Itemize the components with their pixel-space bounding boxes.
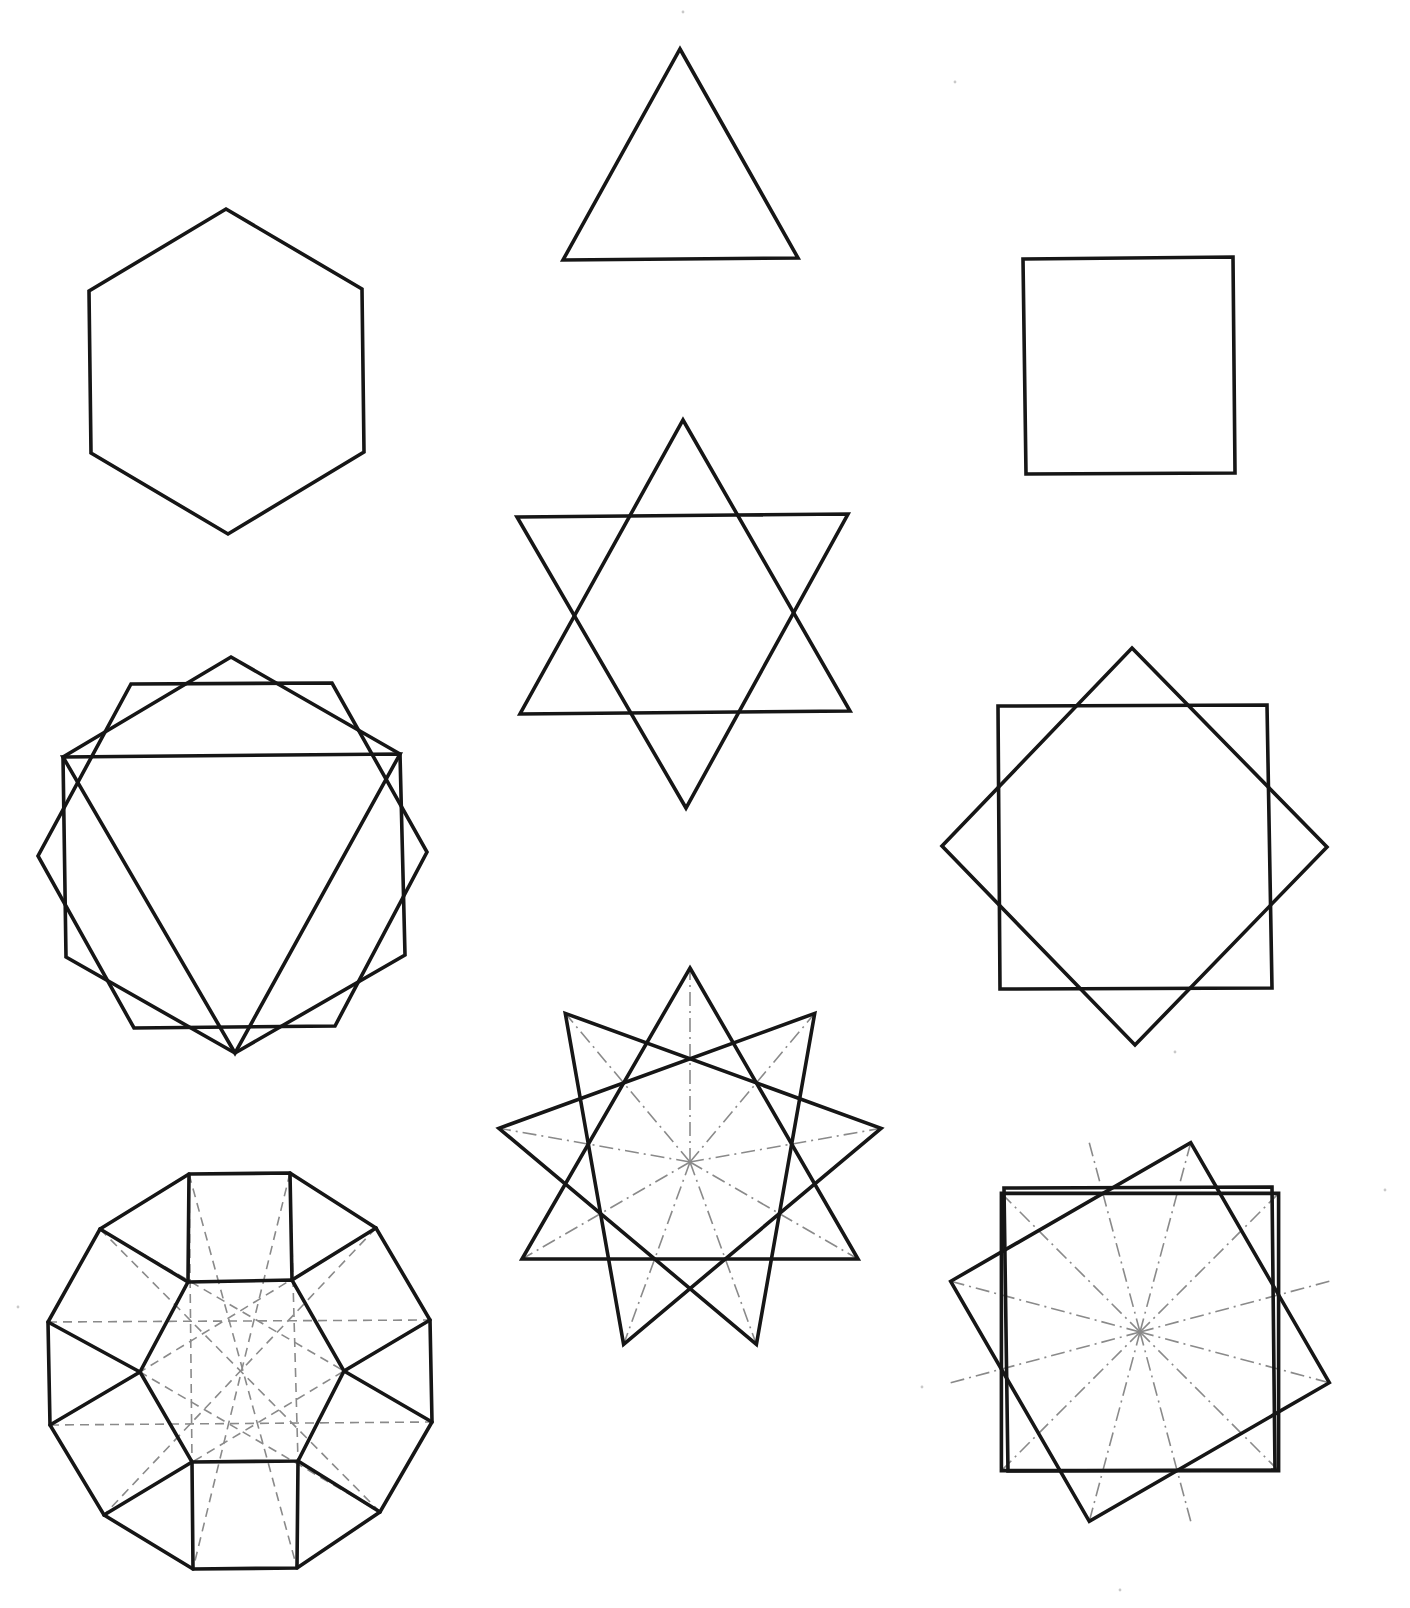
spoke-line [298, 1461, 380, 1512]
square-outline [1023, 257, 1235, 474]
scan-speck [1119, 1589, 1122, 1592]
enneagram-triangle [499, 1013, 815, 1344]
geometry-plate [0, 0, 1410, 1608]
scan-speck [921, 1386, 924, 1389]
radius-guide [1089, 1143, 1140, 1332]
radius-guide [1001, 1193, 1140, 1332]
radius-guide [951, 1332, 1140, 1383]
radius-guide [1001, 1332, 1140, 1471]
radius-guide [1140, 1332, 1191, 1521]
figure-dodecagon-hexagon [48, 1173, 432, 1569]
triangle-outline [563, 49, 798, 260]
figure-octagram [942, 648, 1327, 1045]
spoke-line [344, 1371, 432, 1422]
spoke-line [297, 1461, 298, 1568]
figure-dodecagram [951, 1143, 1330, 1522]
guide-line [48, 1320, 430, 1322]
figure-hexagram [517, 420, 850, 808]
scan-speck [954, 81, 957, 84]
scan-speck [1174, 1051, 1177, 1054]
enneagram-triangle [565, 1013, 881, 1344]
spoke-line [50, 1372, 140, 1425]
figure-square [1023, 257, 1235, 474]
figure-hexagons-triangle [38, 657, 427, 1053]
scan-speck [682, 11, 685, 14]
radius-guide [1140, 1193, 1279, 1332]
spoke-line [192, 1462, 193, 1569]
radius-guide [1140, 1332, 1329, 1383]
hexagram-up-triangle [520, 420, 850, 714]
hexagon-outline [89, 209, 364, 534]
figure-enneagram [499, 968, 881, 1344]
hexagram-down-triangle [517, 514, 848, 808]
spoke-line [48, 1322, 140, 1372]
scan-speck [1384, 1189, 1387, 1192]
spoke-line [290, 1173, 292, 1280]
radius-guide [951, 1281, 1140, 1332]
figure-triangle [563, 49, 798, 260]
radius-guide [1140, 1143, 1191, 1332]
radius-guide [1140, 1281, 1329, 1332]
spoke-line [188, 1174, 189, 1282]
radius-guide [1089, 1332, 1140, 1521]
inscribed-triangle-outline [63, 754, 400, 1053]
guide-line [50, 1422, 432, 1425]
radius-guide [1140, 1332, 1279, 1471]
scan-speck [17, 1306, 20, 1309]
spoke-line [104, 1462, 192, 1515]
figure-hexagon [89, 209, 364, 534]
guide-line [189, 1174, 297, 1568]
guide-line [104, 1228, 376, 1515]
spoke-line [344, 1320, 430, 1371]
